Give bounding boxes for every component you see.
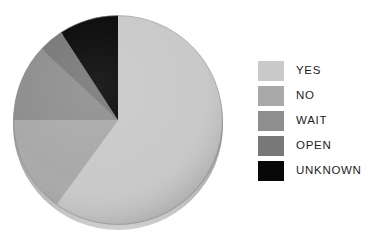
legend-label-unknown: UNKNOWN	[296, 165, 362, 177]
legend-label-no: NO	[296, 90, 315, 102]
legend-item-unknown[interactable]: UNKNOWN	[258, 158, 384, 183]
legend-label-yes: YES	[296, 65, 321, 77]
chart-legend: YES NO WAIT OPEN UNKNOWN	[258, 58, 384, 183]
legend-swatch-wait	[258, 111, 284, 131]
legend-item-yes[interactable]: YES	[258, 58, 384, 83]
legend-swatch-unknown	[258, 161, 284, 181]
pie-chart-svg	[11, 11, 225, 233]
pie-slices-group	[14, 16, 223, 225]
legend-item-no[interactable]: NO	[258, 83, 384, 108]
legend-swatch-no	[258, 86, 284, 106]
legend-label-wait: WAIT	[296, 115, 327, 127]
pie-chart-plot-area	[11, 11, 225, 233]
legend-item-wait[interactable]: WAIT	[258, 108, 384, 133]
legend-item-open[interactable]: OPEN	[258, 133, 384, 158]
legend-label-open: OPEN	[296, 140, 331, 152]
pie-chart-figure: YES NO WAIT OPEN UNKNOWN	[0, 0, 386, 244]
legend-swatch-yes	[258, 61, 284, 81]
legend-swatch-open	[258, 136, 284, 156]
